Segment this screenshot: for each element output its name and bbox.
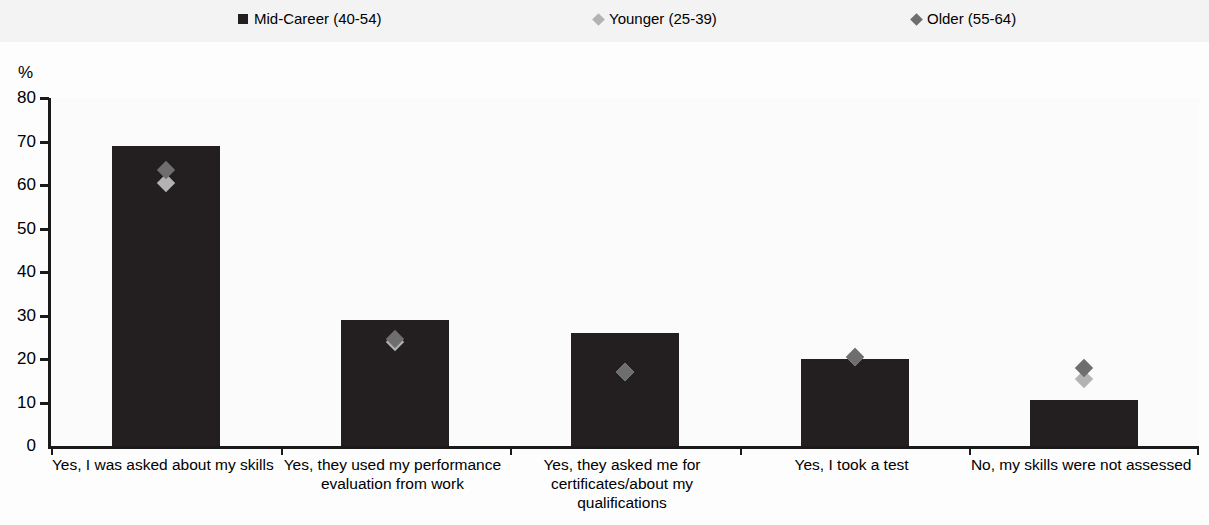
legend-item-mid-career: Mid-Career (40-54) xyxy=(238,10,382,28)
y-axis-tick xyxy=(40,315,49,318)
y-axis-label: 80 xyxy=(0,89,36,106)
x-axis-tick xyxy=(740,446,742,455)
y-axis-label: 0 xyxy=(0,437,36,454)
y-axis-tick xyxy=(40,358,49,361)
x-axis-tick xyxy=(510,446,512,455)
legend-item-younger: Younger (25-39) xyxy=(594,10,717,28)
x-axis-tick xyxy=(969,446,971,455)
x-axis-tick xyxy=(51,446,53,455)
x-axis-category-label: Yes, they asked me for certificates/abou… xyxy=(507,455,737,512)
bar xyxy=(1030,400,1138,446)
y-axis-tick xyxy=(40,271,49,274)
chart-plot-area xyxy=(48,98,1199,449)
y-axis-tick xyxy=(40,141,49,144)
x-axis-category-label: Yes, I was asked about my skills xyxy=(48,455,278,474)
diamond-marker-icon xyxy=(592,13,605,26)
y-axis-tick xyxy=(40,184,49,187)
plot-inner xyxy=(51,98,1199,446)
x-axis-tick xyxy=(281,446,283,455)
x-axis-category-label: Yes, they used my performance evaluation… xyxy=(278,455,508,493)
y-axis-label: 40 xyxy=(0,263,36,280)
diamond-marker-icon xyxy=(910,13,923,26)
legend-label-mid-career: Mid-Career (40-54) xyxy=(254,10,382,28)
y-axis-label: 10 xyxy=(0,394,36,411)
bar xyxy=(571,333,679,446)
y-axis-label: 30 xyxy=(0,307,36,324)
y-axis-tick xyxy=(40,97,49,100)
bar xyxy=(801,359,909,446)
y-axis-label: 50 xyxy=(0,220,36,237)
chart-legend: Mid-Career (40-54) Younger (25-39) Older… xyxy=(0,0,1209,42)
y-axis-label: 60 xyxy=(0,176,36,193)
legend-label-older: Older (55-64) xyxy=(927,10,1016,28)
x-axis-tick xyxy=(1197,446,1199,455)
square-marker-icon xyxy=(238,14,248,24)
legend-label-younger: Younger (25-39) xyxy=(609,10,717,28)
y-axis-tick xyxy=(40,228,49,231)
legend-item-older: Older (55-64) xyxy=(912,10,1016,28)
y-axis-label: 20 xyxy=(0,350,36,367)
x-axis-category-label: Yes, I took a test xyxy=(737,455,967,474)
x-axis-category-label: No, my skills were not assessed xyxy=(966,455,1196,474)
y-axis-label: 70 xyxy=(0,133,36,150)
y-axis-tick xyxy=(40,402,49,405)
y-axis-unit-label: % xyxy=(18,63,33,83)
